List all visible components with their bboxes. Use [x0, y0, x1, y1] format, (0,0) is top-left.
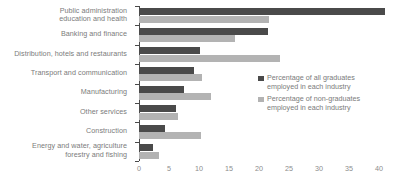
x-axis: 0510152025303540%: [139, 161, 397, 177]
category-label: Manufacturing: [0, 88, 127, 97]
bar-series-2: [139, 113, 178, 120]
category-label-line: Construction: [0, 127, 127, 136]
legend-swatch-icon: [258, 97, 264, 103]
axis-tick: [135, 122, 139, 123]
category-label-line: Banking and finance: [0, 30, 127, 39]
bar-series-2: [139, 55, 280, 62]
category-label-line: forestry and fishing: [0, 151, 127, 160]
axis-tick: [135, 6, 139, 7]
bar-series-1: [139, 144, 153, 151]
category-label: Energy and water, agricultureforestry an…: [0, 142, 127, 159]
axis-tick: [135, 64, 139, 65]
chart-legend: Percentage of all graduatesemployed in e…: [258, 74, 397, 116]
bar-series-1: [139, 105, 176, 112]
axis-tick: [135, 25, 139, 26]
category-label: Public administrationeducation and healt…: [0, 7, 127, 24]
bar-series-1: [139, 67, 194, 74]
x-tick-label: 30: [315, 164, 323, 173]
bar-series-1: [139, 125, 165, 132]
bar-series-2: [139, 93, 211, 100]
x-tick-label: 15: [225, 164, 233, 173]
bar-series-2: [139, 35, 235, 42]
axis-tick: [135, 45, 139, 46]
x-tick-label: 25: [285, 164, 293, 173]
x-tick-label: 0: [137, 164, 141, 173]
bar-series-1: [139, 8, 385, 15]
legend-label-line: employed in each industry: [267, 83, 397, 92]
category-labels: Public administrationeducation and healt…: [0, 6, 133, 161]
category-label: Banking and finance: [0, 30, 127, 39]
bar-series-1: [139, 28, 268, 35]
bar-series-1: [139, 47, 200, 54]
x-tick-label: 40: [375, 164, 383, 173]
bar-series-2: [139, 152, 159, 159]
legend-swatch-icon: [258, 76, 264, 82]
category-label-line: Other services: [0, 108, 127, 117]
bar-series-2: [139, 16, 269, 23]
axis-tick: [135, 142, 139, 143]
category-label: Distribution, hotels and restaurants: [0, 50, 127, 59]
bar-series-2: [139, 74, 202, 81]
bar-series-1: [139, 86, 184, 93]
category-label: Transport and communication: [0, 69, 127, 78]
category-label-line: Distribution, hotels and restaurants: [0, 50, 127, 59]
category-label-line: Manufacturing: [0, 88, 127, 97]
x-tick-label: 35: [345, 164, 353, 173]
legend-item[interactable]: Percentage of non-graduatesemployed in e…: [258, 95, 397, 112]
category-label-line: Transport and communication: [0, 69, 127, 78]
category-label: Construction: [0, 127, 127, 136]
x-tick-label: 5: [167, 164, 171, 173]
axis-tick: [135, 103, 139, 104]
axis-tick: [135, 84, 139, 85]
category-label: Other services: [0, 108, 127, 117]
x-tick-label: 20: [255, 164, 263, 173]
legend-label-line: employed in each industry: [267, 104, 397, 113]
bar-chart: Public administrationeducation and healt…: [0, 0, 397, 189]
x-tick-label: 10: [195, 164, 203, 173]
bar-series-2: [139, 132, 201, 139]
category-label-line: education and health: [0, 15, 127, 24]
legend-item[interactable]: Percentage of all graduatesemployed in e…: [258, 74, 397, 91]
